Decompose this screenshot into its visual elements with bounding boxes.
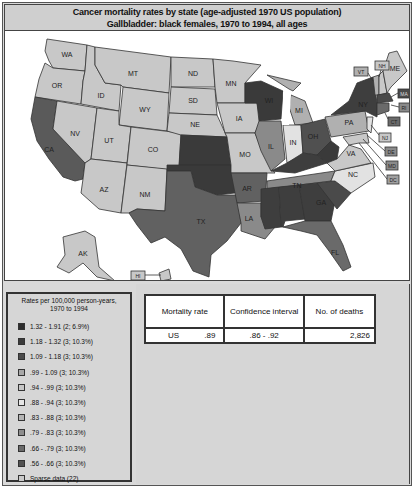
swatch-icon xyxy=(18,353,25,360)
header-confidence-interval: Confidence interval xyxy=(224,295,303,328)
stats-table: Mortality rate Confidence interval No. o… xyxy=(144,294,376,344)
svg-text:NJ: NJ xyxy=(382,135,389,141)
label-ut: UT xyxy=(104,137,114,144)
state-ma[interactable] xyxy=(377,93,393,103)
label-nm: NM xyxy=(140,191,151,198)
legend-item: .79 - .83 (3; 10.3%) xyxy=(8,425,130,440)
label-nv: NV xyxy=(70,130,80,137)
us-choropleth-map: WA OR CA ID NV MT WY UT AZ CO NM ND SD N… xyxy=(4,31,410,281)
state-ks[interactable] xyxy=(179,135,231,165)
label-ny: NY xyxy=(358,101,368,108)
title-bar: Cancer mortality rates by state (age-adj… xyxy=(4,4,410,31)
svg-text:DC: DC xyxy=(389,177,397,183)
swatch-icon xyxy=(18,399,25,406)
label-wy: WY xyxy=(139,106,151,113)
label-me: ME xyxy=(390,65,401,72)
label-in: IN xyxy=(290,139,297,146)
label-wa: WA xyxy=(61,51,72,58)
label-co: CO xyxy=(148,146,159,153)
svg-text:NH: NH xyxy=(378,63,386,69)
label-nc: NC xyxy=(348,171,358,178)
table-row: US .89 .86 - .92 2,826 xyxy=(145,328,375,343)
header-mortality-rate: Mortality rate xyxy=(145,295,224,328)
swatch-icon xyxy=(18,369,25,376)
label-oh: OH xyxy=(308,133,319,140)
state-ct[interactable] xyxy=(377,103,389,115)
label-mn: MN xyxy=(226,80,237,87)
label-nd: ND xyxy=(188,70,198,77)
legend: Rates per 100,000 person-years, 1970 to … xyxy=(6,292,132,482)
label-sd: SD xyxy=(188,97,198,104)
svg-text:CT: CT xyxy=(391,119,398,125)
svg-text:DE: DE xyxy=(388,149,396,155)
swatch-icon xyxy=(18,323,25,330)
label-fl: FL xyxy=(331,249,339,256)
rate-value: .89 xyxy=(204,331,215,340)
label-wi: WI xyxy=(265,97,274,104)
swatch-icon xyxy=(18,445,25,452)
state-ms[interactable] xyxy=(261,187,281,229)
cell-us-rate: US .89 xyxy=(145,328,224,343)
swatch-icon xyxy=(18,414,25,421)
legend-item: .56 - .66 (3; 10.3%) xyxy=(8,456,130,471)
title-line-2: Gallbladder: black females, 1970 to 1994… xyxy=(5,18,409,30)
swatch-icon xyxy=(18,384,25,391)
svg-text:MA: MA xyxy=(400,91,408,97)
cell-deaths: 2,826 xyxy=(304,328,375,343)
svg-text:MD: MD xyxy=(388,163,396,169)
legend-title: Rates per 100,000 person-years, 1970 to … xyxy=(8,297,130,313)
state-ny[interactable] xyxy=(331,77,377,117)
label-ak: AK xyxy=(78,250,88,257)
swatch-icon xyxy=(18,475,25,482)
label-il: IL xyxy=(268,143,274,150)
legend-item: .88 - .94 (3; 10.3%) xyxy=(8,395,130,410)
region-label: US xyxy=(168,331,179,340)
state-me[interactable] xyxy=(383,51,407,93)
label-ar: AR xyxy=(242,185,252,192)
label-la: LA xyxy=(245,215,254,222)
svg-text:HI: HI xyxy=(136,273,141,279)
swatch-icon xyxy=(18,429,25,436)
legend-item: 1.32 - 1.91 (2; 6.9%) xyxy=(8,319,130,334)
swatch-icon xyxy=(18,460,25,467)
label-ne: NE xyxy=(190,121,200,128)
label-tx: TX xyxy=(197,218,206,225)
title-line-1: Cancer mortality rates by state (age-adj… xyxy=(5,6,409,18)
legend-item: .83 - .88 (3; 10.3%) xyxy=(8,410,130,425)
label-id: ID xyxy=(98,92,105,99)
label-mi: MI xyxy=(295,107,303,114)
label-ia: IA xyxy=(236,115,243,122)
label-or: OR xyxy=(52,82,63,89)
stats-panel: Mortality rate Confidence interval No. o… xyxy=(136,284,410,484)
label-mt: MT xyxy=(128,70,139,77)
label-va: VA xyxy=(347,150,356,157)
state-nm[interactable] xyxy=(121,165,167,213)
legend-item: Sparse data (22) xyxy=(8,471,130,486)
legend-item: .94 - .99 (3; 10.3%) xyxy=(8,380,130,395)
state-fl[interactable] xyxy=(283,221,351,271)
legend-item: .99 - 1.09 (3; 10.3%) xyxy=(8,365,130,380)
label-ga: GA xyxy=(316,199,326,206)
label-ca: CA xyxy=(44,146,54,153)
svg-text:VT: VT xyxy=(358,69,364,75)
legend-item: 1.09 - 1.18 (3; 10.3%) xyxy=(8,349,130,364)
label-pa: PA xyxy=(345,119,354,126)
legend-list: 1.32 - 1.91 (2; 6.9%) 1.18 - 1.32 (3; 10… xyxy=(8,319,130,486)
swatch-icon xyxy=(18,338,25,345)
legend-item: .66 - .79 (3; 10.3%) xyxy=(8,441,130,456)
header-deaths: No. of deaths xyxy=(304,295,375,328)
label-mo: MO xyxy=(239,151,251,158)
cell-ci: .86 - .92 xyxy=(224,328,303,343)
legend-item: 1.18 - 1.32 (3; 10.3%) xyxy=(8,334,130,349)
label-tn: TN xyxy=(292,182,301,189)
svg-text:RI: RI xyxy=(402,105,407,111)
label-az: AZ xyxy=(100,186,110,193)
